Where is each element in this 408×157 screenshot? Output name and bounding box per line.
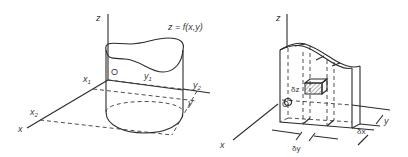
right-x-axis bbox=[233, 104, 278, 140]
right-x-label: x bbox=[219, 140, 225, 150]
figure-canvas: z x y x1 x2 y1 y2 O z = f(x,y) z bbox=[0, 0, 408, 157]
y2-label: y2 bbox=[192, 80, 202, 91]
delta-y-dim-right bbox=[314, 136, 338, 139]
right-y-label: y bbox=[383, 116, 389, 126]
base-ellipse-back bbox=[106, 102, 183, 113]
surface-label: z = f(x,y) bbox=[167, 22, 203, 32]
slab-top-divider-1 bbox=[316, 56, 324, 60]
delta-x-label: δx bbox=[357, 127, 365, 136]
delta-y-label: δy bbox=[292, 144, 300, 153]
left-origin-label: O bbox=[111, 67, 118, 77]
element-front-hatched bbox=[305, 83, 322, 94]
slab-right-face bbox=[352, 66, 360, 128]
left-panel: z x y x1 x2 y1 y2 O z = f(x,y) bbox=[17, 13, 210, 135]
grid-back-corner bbox=[280, 118, 288, 122]
left-x-label: x bbox=[17, 124, 23, 134]
delta-y-dim-left bbox=[272, 130, 300, 134]
element-side bbox=[322, 79, 327, 94]
right-z-label: z bbox=[275, 13, 281, 23]
x1-grid-line bbox=[93, 89, 197, 101]
right-y-axis-hidden bbox=[282, 100, 352, 105]
left-z-label: z bbox=[95, 13, 101, 23]
right-panel: z x y O δz bbox=[219, 13, 390, 153]
delta-x-ext-2 bbox=[360, 124, 380, 126]
delta-y-tick-right bbox=[309, 133, 315, 141]
x1-label: x1 bbox=[82, 74, 91, 85]
x2-label: x2 bbox=[29, 107, 39, 118]
y1-label: y1 bbox=[143, 71, 152, 82]
delta-x-tick-bottom bbox=[358, 135, 368, 145]
left-x-axis bbox=[27, 80, 108, 128]
delta-z-label: δz bbox=[291, 85, 299, 94]
y2-grid-line bbox=[172, 91, 197, 135]
grid-back-bottom bbox=[288, 118, 352, 122]
right-y-axis bbox=[352, 105, 390, 110]
base-ellipse-front bbox=[106, 112, 183, 133]
delta-x-tick-top bbox=[376, 115, 383, 124]
